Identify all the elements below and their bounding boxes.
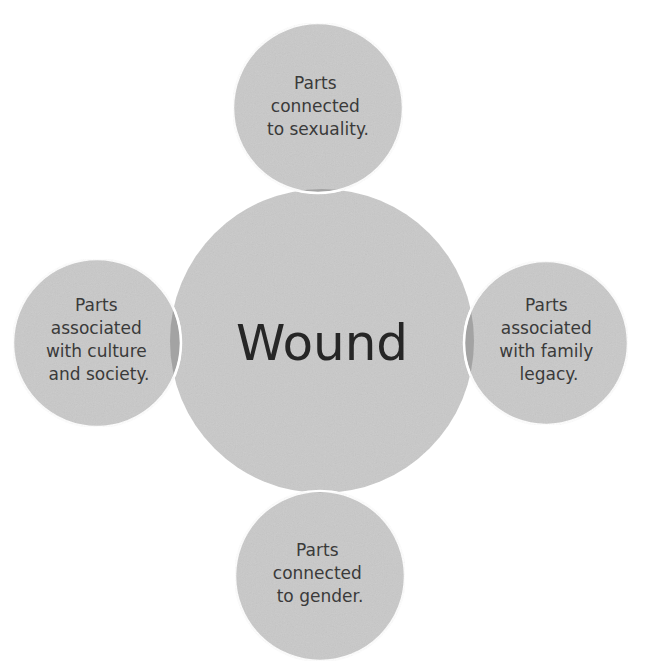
wound-radial-diagram: Wound Parts connected to sexuality. Part… — [0, 0, 645, 669]
center-label: Wound — [236, 314, 408, 372]
